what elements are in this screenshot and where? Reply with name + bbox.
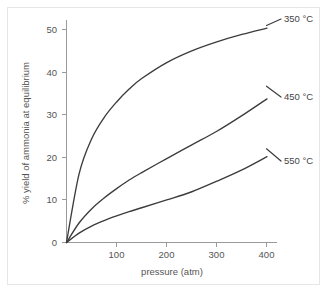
y-tick-label-20: 20: [46, 152, 57, 163]
curve-350c: [67, 28, 267, 242]
x-axis: [67, 243, 278, 248]
curve-450c: [67, 99, 267, 243]
y-tick-label-40: 40: [46, 67, 57, 78]
series-label-450c: 450 °C: [284, 91, 313, 102]
y-tick-label-30: 30: [46, 109, 57, 120]
y-tick-label-50: 50: [46, 24, 57, 35]
leader-line-550c: [267, 149, 282, 161]
x-tick-label-100: 100: [109, 249, 125, 260]
x-tick-label-400: 400: [259, 249, 275, 260]
y-tick-label-0: 0: [52, 237, 57, 248]
x-axis-title: pressure (atm): [141, 266, 203, 277]
label-leader-lines: [267, 19, 282, 161]
y-axis-title: % yield of ammonia at equilibrium: [20, 62, 31, 204]
series-label-550c: 550 °C: [284, 155, 313, 166]
leader-line-350c: [267, 19, 282, 26]
series-label-350c: 350 °C: [284, 13, 313, 24]
ammonia-yield-line-chart: 0 10 20 30 40 50 100 200 300 400 pressur…: [0, 0, 327, 292]
leader-line-450c: [267, 86, 282, 97]
x-tick-label-300: 300: [209, 249, 225, 260]
series-curves: [67, 28, 267, 242]
x-tick-label-200: 200: [159, 249, 175, 260]
curve-550c: [67, 157, 267, 243]
y-tick-label-10: 10: [46, 194, 57, 205]
chart-figure: 0 10 20 30 40 50 100 200 300 400 pressur…: [0, 0, 327, 292]
y-axis: [62, 20, 67, 243]
